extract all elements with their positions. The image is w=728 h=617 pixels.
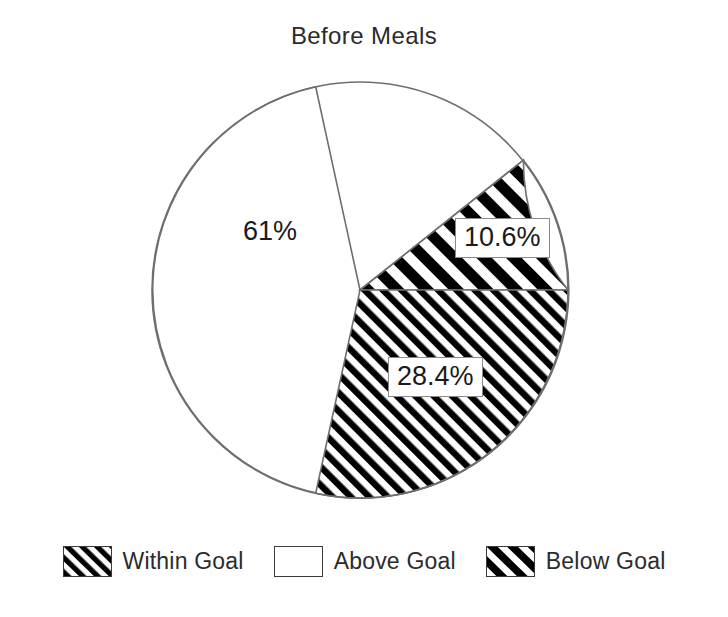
fine-diagonal-hatch-swatch-icon [63, 546, 112, 577]
legend-item-below-goal[interactable]: Below Goal [486, 546, 666, 577]
legend-item-within-goal[interactable]: Within Goal [63, 546, 244, 577]
chart-title: Before Meals [0, 22, 728, 50]
slice-label-above-goal: 61% [243, 218, 297, 245]
legend-label-below-goal: Below Goal [546, 548, 666, 575]
legend-label-within-goal: Within Goal [123, 548, 244, 575]
pie-plot-area [130, 60, 600, 520]
legend-label-above-goal: Above Goal [334, 548, 456, 575]
slice-label-below-goal: 10.6% [455, 218, 550, 258]
empty-white-swatch-icon [274, 546, 323, 577]
coarse-diagonal-hatch-swatch-icon [486, 546, 535, 577]
slice-label-within-goal: 28.4% [388, 357, 483, 397]
legend-item-above-goal[interactable]: Above Goal [274, 546, 456, 577]
chart-legend: Within Goal Above Goal Below Goal [0, 533, 728, 589]
pie-chart-figure: Before Meals [0, 0, 728, 617]
pie-svg [130, 60, 600, 520]
